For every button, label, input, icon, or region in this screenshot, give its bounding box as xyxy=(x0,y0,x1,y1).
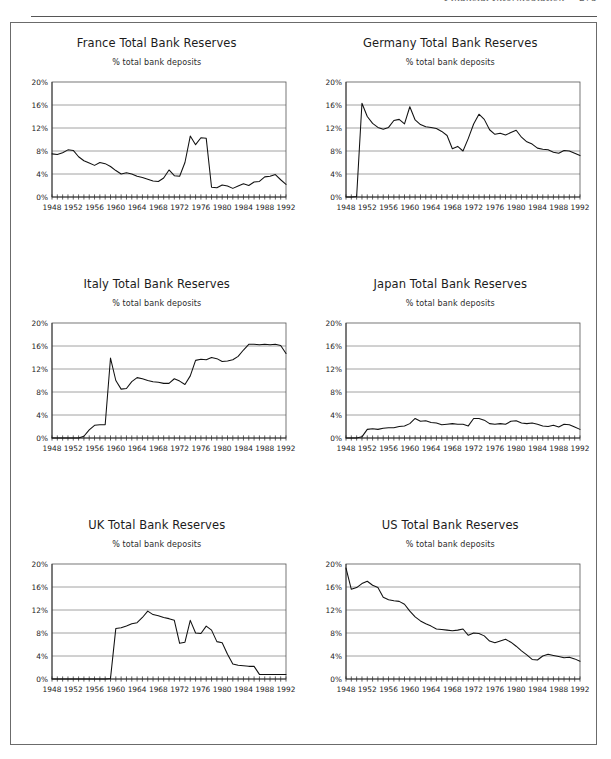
svg-text:1980: 1980 xyxy=(506,203,525,212)
svg-text:1968: 1968 xyxy=(442,444,461,453)
plot-area: 0%4%8%12%16%20%1948195219561960196419681… xyxy=(304,556,598,706)
svg-text:1956: 1956 xyxy=(85,685,104,694)
svg-text:1980: 1980 xyxy=(213,444,232,453)
svg-text:20%: 20% xyxy=(32,560,48,569)
svg-text:0%: 0% xyxy=(36,193,48,202)
svg-text:4%: 4% xyxy=(330,170,342,179)
svg-text:0%: 0% xyxy=(36,675,48,684)
chart-title: France Total Bank Reserves xyxy=(10,36,304,50)
svg-text:12%: 12% xyxy=(325,606,341,615)
chart-panel-france: France Total Bank Reserves % total bank … xyxy=(10,22,304,263)
svg-text:0%: 0% xyxy=(330,193,342,202)
svg-text:1960: 1960 xyxy=(106,685,125,694)
chart-panel-uk: UK Total Bank Reserves % total bank depo… xyxy=(10,504,304,745)
svg-text:8%: 8% xyxy=(330,388,342,397)
svg-text:1988: 1988 xyxy=(255,444,274,453)
svg-text:1992: 1992 xyxy=(277,444,296,453)
plot-area: 0%4%8%12%16%20%1948195219561960196419681… xyxy=(304,74,598,224)
svg-text:1952: 1952 xyxy=(64,203,83,212)
svg-text:1976: 1976 xyxy=(192,203,211,212)
svg-text:1956: 1956 xyxy=(379,685,398,694)
svg-text:1984: 1984 xyxy=(234,685,253,694)
chart-panel-italy: Italy Total Bank Reserves % total bank d… xyxy=(10,263,304,504)
chart-panel-germany: Germany Total Bank Reserves % total bank… xyxy=(304,22,598,263)
chart-panel-japan: Japan Total Bank Reserves % total bank d… xyxy=(304,263,598,504)
svg-text:1972: 1972 xyxy=(464,444,483,453)
svg-text:1952: 1952 xyxy=(357,444,376,453)
svg-text:1964: 1964 xyxy=(128,685,147,694)
svg-text:12%: 12% xyxy=(325,124,341,133)
svg-text:0%: 0% xyxy=(36,434,48,443)
svg-text:1948: 1948 xyxy=(43,444,62,453)
svg-text:1984: 1984 xyxy=(528,685,547,694)
chart-panel-us: US Total Bank Reserves % total bank depo… xyxy=(304,504,598,745)
svg-text:1952: 1952 xyxy=(64,444,83,453)
svg-text:4%: 4% xyxy=(330,652,342,661)
chart-title: Germany Total Bank Reserves xyxy=(304,36,598,50)
svg-text:16%: 16% xyxy=(32,583,48,592)
svg-text:1948: 1948 xyxy=(336,203,355,212)
svg-text:1984: 1984 xyxy=(234,203,253,212)
svg-text:1988: 1988 xyxy=(255,203,274,212)
svg-text:1980: 1980 xyxy=(506,685,525,694)
svg-text:1948: 1948 xyxy=(43,203,62,212)
svg-text:1988: 1988 xyxy=(549,685,568,694)
svg-text:1968: 1968 xyxy=(149,203,168,212)
svg-text:1972: 1972 xyxy=(464,203,483,212)
chart-subtitle: % total bank deposits xyxy=(304,58,598,67)
svg-text:1976: 1976 xyxy=(192,444,211,453)
plot-area: 0%4%8%12%16%20%1948195219561960196419681… xyxy=(10,74,304,224)
svg-text:1960: 1960 xyxy=(106,203,125,212)
svg-text:20%: 20% xyxy=(32,78,48,87)
page-header: Financial Intermediation275 xyxy=(0,0,611,7)
chart-title: Japan Total Bank Reserves xyxy=(304,277,598,291)
svg-text:20%: 20% xyxy=(325,319,341,328)
svg-text:1992: 1992 xyxy=(570,685,589,694)
svg-text:1960: 1960 xyxy=(400,203,419,212)
svg-text:8%: 8% xyxy=(36,629,48,638)
svg-text:20%: 20% xyxy=(32,319,48,328)
svg-text:1988: 1988 xyxy=(549,444,568,453)
svg-text:1952: 1952 xyxy=(64,685,83,694)
svg-text:1948: 1948 xyxy=(336,685,355,694)
svg-text:1976: 1976 xyxy=(485,685,504,694)
page-number: 275 xyxy=(579,0,597,3)
svg-text:1992: 1992 xyxy=(277,685,296,694)
svg-text:0%: 0% xyxy=(330,434,342,443)
svg-text:1960: 1960 xyxy=(400,444,419,453)
svg-text:1984: 1984 xyxy=(528,203,547,212)
svg-text:4%: 4% xyxy=(330,411,342,420)
chart-subtitle: % total bank deposits xyxy=(10,299,304,308)
chart-subtitle: % total bank deposits xyxy=(10,540,304,549)
svg-text:1972: 1972 xyxy=(170,203,189,212)
svg-text:12%: 12% xyxy=(325,365,341,374)
page-header-inner: Financial Intermediation275 xyxy=(444,0,597,3)
svg-text:1956: 1956 xyxy=(85,444,104,453)
svg-text:1972: 1972 xyxy=(170,685,189,694)
plot-area: 0%4%8%12%16%20%1948195219561960196419681… xyxy=(304,315,598,465)
svg-text:20%: 20% xyxy=(325,560,341,569)
svg-text:4%: 4% xyxy=(36,652,48,661)
svg-text:8%: 8% xyxy=(330,629,342,638)
svg-text:1968: 1968 xyxy=(442,685,461,694)
svg-text:1976: 1976 xyxy=(192,685,211,694)
svg-text:1960: 1960 xyxy=(400,685,419,694)
svg-text:1964: 1964 xyxy=(128,444,147,453)
svg-text:1956: 1956 xyxy=(379,444,398,453)
svg-text:1968: 1968 xyxy=(149,444,168,453)
svg-text:1964: 1964 xyxy=(421,444,440,453)
svg-text:1992: 1992 xyxy=(570,203,589,212)
svg-text:1984: 1984 xyxy=(234,444,253,453)
svg-text:16%: 16% xyxy=(325,583,341,592)
svg-text:12%: 12% xyxy=(32,606,48,615)
svg-text:16%: 16% xyxy=(325,101,341,110)
svg-text:16%: 16% xyxy=(325,342,341,351)
svg-text:16%: 16% xyxy=(32,101,48,110)
chart-title: US Total Bank Reserves xyxy=(304,518,598,532)
chart-title: Italy Total Bank Reserves xyxy=(10,277,304,291)
chart-subtitle: % total bank deposits xyxy=(10,58,304,67)
svg-text:1952: 1952 xyxy=(357,203,376,212)
svg-text:1960: 1960 xyxy=(106,444,125,453)
svg-text:1964: 1964 xyxy=(421,685,440,694)
svg-text:1992: 1992 xyxy=(570,444,589,453)
